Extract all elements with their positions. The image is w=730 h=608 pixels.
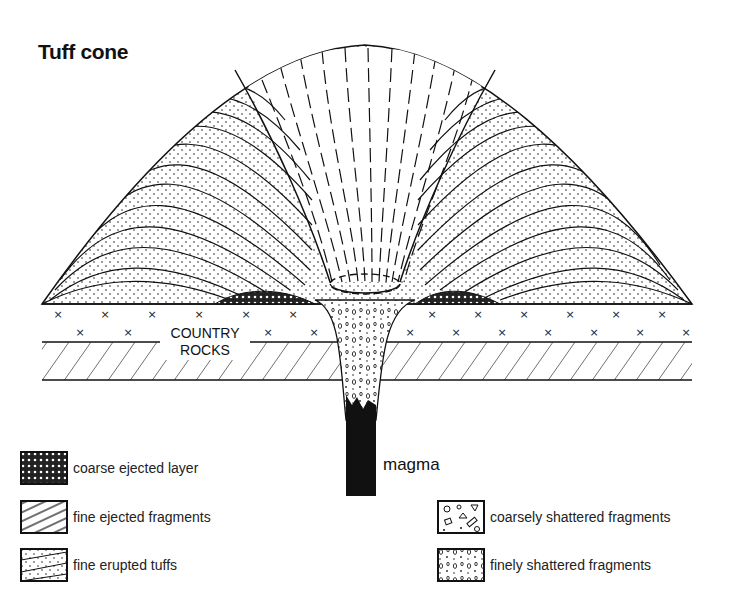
finely-shattered-swatch: [437, 548, 485, 582]
svg-text:×: ×: [451, 326, 460, 339]
svg-text:×: ×: [543, 326, 552, 339]
svg-text:×: ×: [263, 326, 272, 339]
magma-label: magma: [383, 455, 440, 475]
legend-label: finely shattered fragments: [490, 557, 651, 573]
svg-text:×: ×: [288, 308, 297, 321]
coarsely-shattered-swatch: [437, 500, 485, 534]
svg-text:×: ×: [635, 326, 644, 339]
svg-text:×: ×: [309, 326, 318, 339]
svg-text:×: ×: [427, 308, 436, 321]
coarse-ejected-swatch: [20, 451, 68, 485]
legend-label: coarse ejected layer: [73, 460, 198, 476]
country-rocks-label: COUNTRY ROCKS: [160, 324, 250, 360]
cone-tuff-layers: [42, 45, 692, 304]
country-rocks-line2: ROCKS: [160, 342, 250, 359]
svg-text:×: ×: [123, 326, 132, 339]
svg-text:×: ×: [611, 308, 620, 321]
svg-text:×: ×: [519, 308, 528, 321]
svg-text:×: ×: [681, 326, 690, 339]
legend-label: fine erupted tuffs: [73, 557, 177, 573]
svg-text:×: ×: [405, 326, 414, 339]
country-rocks-line1: COUNTRY: [160, 325, 250, 342]
svg-text:×: ×: [565, 308, 574, 321]
svg-text:×: ×: [497, 326, 506, 339]
svg-text:×: ×: [100, 308, 109, 321]
svg-text:×: ×: [473, 308, 482, 321]
svg-text:×: ×: [194, 308, 203, 321]
legend-fine-ejected-fragments: fine ejected fragments: [20, 500, 211, 534]
legend-fine-erupted-tuffs: fine erupted tuffs: [20, 548, 177, 582]
svg-text:×: ×: [657, 308, 666, 321]
legend-label: fine ejected fragments: [73, 509, 211, 525]
legend-finely-shattered-fragments: finely shattered fragments: [437, 548, 651, 582]
svg-text:×: ×: [75, 326, 84, 339]
svg-text:×: ×: [589, 326, 598, 339]
legend-coarse-ejected-layer: coarse ejected layer: [20, 451, 198, 485]
legend-coarsely-shattered-fragments: coarsely shattered fragments: [437, 500, 671, 534]
svg-text:×: ×: [147, 308, 156, 321]
svg-text:×: ×: [241, 308, 250, 321]
fine-erupted-swatch: [20, 548, 68, 582]
fine-ejected-swatch: [20, 500, 68, 534]
legend-label: coarsely shattered fragments: [490, 509, 671, 525]
svg-text:×: ×: [53, 308, 62, 321]
